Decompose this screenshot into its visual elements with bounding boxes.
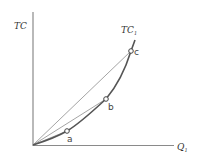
tc-curve — [33, 40, 135, 145]
x-axis-label-subscript: 1 — [184, 147, 187, 153]
point-b — [104, 97, 109, 102]
point-b-label: b — [108, 102, 114, 112]
point-a — [65, 129, 70, 134]
curve-label-subscript: 1 — [134, 30, 137, 36]
total-cost-diagram: a b c TC Q1 TC1 — [0, 0, 197, 157]
point-c-label: c — [134, 47, 139, 57]
point-a-label: a — [67, 134, 73, 144]
x-axis-label: Q1 — [177, 142, 188, 153]
ray-to-c — [33, 51, 131, 145]
curve-label: TC1 — [121, 25, 137, 36]
y-axis-label: TC — [14, 21, 27, 31]
curve-label-main: TC — [121, 25, 134, 35]
point-c — [129, 49, 134, 54]
